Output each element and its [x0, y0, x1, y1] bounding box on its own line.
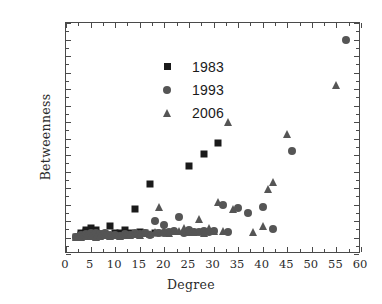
y-tick	[66, 73, 71, 74]
y-tick	[354, 188, 359, 189]
y-tick-minor	[356, 64, 359, 65]
x-axis-title: Degree	[0, 277, 382, 292]
x-tick	[287, 247, 288, 252]
x-tick	[361, 23, 362, 28]
data-point-2006	[195, 215, 203, 223]
y-tick	[66, 40, 71, 41]
x-tick-minor	[177, 249, 178, 252]
y-tick-minor	[356, 246, 359, 247]
x-tick	[189, 247, 190, 252]
y-tick	[354, 23, 359, 24]
data-point-2006	[219, 227, 227, 235]
y-tick-minor	[66, 163, 69, 164]
y-tick	[66, 254, 71, 255]
x-tick	[66, 23, 67, 28]
y-tick-minor	[66, 180, 69, 181]
y-tick-minor	[66, 48, 69, 49]
x-tick	[263, 247, 264, 252]
x-tick-minor	[78, 249, 79, 252]
x-tick	[238, 23, 239, 28]
y-tick	[354, 205, 359, 206]
y-tick-minor	[356, 114, 359, 115]
y-tick-minor	[66, 130, 69, 131]
y-tick	[66, 155, 71, 156]
x-tick	[140, 23, 141, 28]
x-tick-minor	[103, 23, 104, 26]
y-tick-minor	[356, 213, 359, 214]
y-tick-minor	[66, 31, 69, 32]
x-tick-minor	[275, 249, 276, 252]
y-tick-minor	[66, 147, 69, 148]
y-tick	[66, 89, 71, 90]
y-tick	[354, 238, 359, 239]
x-tick	[214, 23, 215, 28]
x-tick-minor	[250, 249, 251, 252]
y-tick-minor	[356, 147, 359, 148]
x-tick-minor	[226, 23, 227, 26]
legend-item-1993[interactable]: 1993	[154, 78, 258, 101]
data-point-2006	[249, 228, 257, 236]
y-tick-minor	[356, 180, 359, 181]
data-point-1993	[151, 217, 159, 225]
y-tick	[66, 172, 71, 173]
y-tick-minor	[66, 114, 69, 115]
x-tick-minor	[152, 249, 153, 252]
y-tick	[354, 254, 359, 255]
data-point-1993	[269, 225, 277, 233]
y-tick-minor	[356, 130, 359, 131]
data-point-2006	[190, 228, 198, 236]
data-point-1993	[288, 147, 296, 155]
data-point-2006	[283, 130, 291, 138]
x-tick	[336, 23, 337, 28]
data-point-2006	[269, 178, 277, 186]
x-tick	[115, 247, 116, 252]
x-tick	[189, 23, 190, 28]
data-point-2006	[151, 228, 159, 236]
data-point-1993	[244, 209, 252, 217]
x-tick	[263, 23, 264, 28]
x-tick	[214, 247, 215, 252]
data-point-2006	[210, 227, 218, 235]
data-point-1983	[215, 139, 222, 146]
y-tick	[66, 221, 71, 222]
y-tick	[354, 139, 359, 140]
data-point-1993	[259, 203, 267, 211]
y-tick	[354, 106, 359, 107]
x-tick	[312, 247, 313, 252]
legend-marker-square-icon	[154, 63, 180, 70]
legend-item-1983[interactable]: 1983	[154, 55, 258, 78]
y-tick	[354, 73, 359, 74]
y-tick	[354, 122, 359, 123]
y-tick	[66, 106, 71, 107]
x-tick-minor	[324, 249, 325, 252]
x-tick-minor	[177, 23, 178, 26]
y-tick-minor	[66, 196, 69, 197]
x-tick-minor	[201, 249, 202, 252]
x-tick	[164, 23, 165, 28]
y-tick-minor	[356, 163, 359, 164]
legend-item-2006[interactable]: 2006	[154, 101, 258, 124]
y-tick	[66, 238, 71, 239]
legend-label: 1983	[180, 59, 224, 75]
x-tick	[287, 23, 288, 28]
data-point-1993	[175, 213, 183, 221]
legend-marker-triangle-icon	[154, 109, 180, 117]
x-tick	[238, 247, 239, 252]
x-tick	[91, 23, 92, 28]
y-tick	[66, 139, 71, 140]
x-tick-minor	[78, 23, 79, 26]
x-tick	[164, 247, 165, 252]
data-point-1983	[131, 206, 138, 213]
data-point-1983	[200, 151, 207, 158]
x-tick	[115, 23, 116, 28]
x-tick-minor	[152, 23, 153, 26]
y-tick	[66, 188, 71, 189]
x-tick-minor	[201, 23, 202, 26]
x-tick-minor	[127, 249, 128, 252]
x-tick-label: 60	[340, 257, 380, 271]
y-tick-minor	[356, 48, 359, 49]
data-point-2006	[229, 205, 237, 213]
data-point-1983	[146, 181, 153, 188]
y-tick-minor	[356, 229, 359, 230]
y-tick	[354, 155, 359, 156]
